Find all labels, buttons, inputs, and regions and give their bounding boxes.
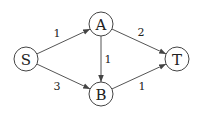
node-label: A bbox=[95, 16, 107, 34]
arrow-icon bbox=[37, 64, 90, 89]
node-a: A bbox=[89, 12, 113, 36]
edge-weight-label: 3 bbox=[54, 80, 61, 93]
graph-canvas: 13121 SABT bbox=[0, 0, 199, 115]
node-s: S bbox=[14, 47, 38, 71]
node-label: T bbox=[172, 51, 182, 69]
edge-weight-label: 1 bbox=[105, 53, 112, 66]
edge-weight-label: 1 bbox=[54, 27, 61, 40]
node-t: T bbox=[165, 47, 189, 71]
edge-weight-label: 1 bbox=[139, 80, 146, 93]
edge-weight-label: 2 bbox=[138, 26, 145, 39]
node-label: S bbox=[21, 51, 31, 69]
node-b: B bbox=[89, 82, 113, 106]
edge-s-b bbox=[37, 64, 90, 89]
graph-diagram: 13121 SABT bbox=[0, 0, 199, 115]
arrow-icon bbox=[37, 29, 90, 54]
node-label: B bbox=[95, 86, 106, 104]
edge-s-a bbox=[37, 29, 90, 54]
